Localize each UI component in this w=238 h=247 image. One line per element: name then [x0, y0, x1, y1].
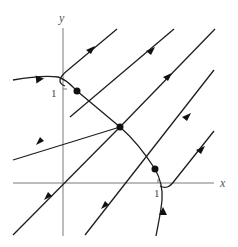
equilibrium-upper	[74, 88, 81, 95]
x-tick-1: 1	[154, 187, 160, 199]
arrow-icon	[163, 73, 172, 81]
y-axis-label: y	[58, 11, 65, 25]
phase-portrait: y x 1 1	[0, 0, 238, 247]
arrow-icon	[36, 137, 44, 145]
arrow-icon	[86, 46, 95, 54]
trajectory-diagonal-4	[85, 70, 214, 235]
equilibrium-lower	[152, 166, 159, 173]
arrow-icon	[182, 113, 191, 121]
x-axis-label: x	[219, 176, 226, 190]
equilibrium-middle	[117, 124, 124, 131]
trajectory-diagonal-1	[70, 29, 174, 117]
y-tick-1: 1	[51, 87, 57, 99]
arrow-icon	[101, 201, 109, 209]
trajectory-upper-turn	[60, 29, 117, 86]
trajectory-lower-turn	[160, 131, 214, 187]
